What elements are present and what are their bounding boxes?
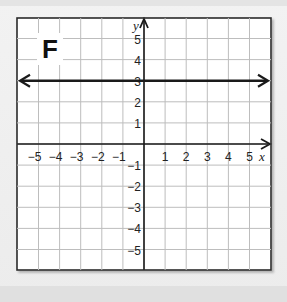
x-tick-label: 2 [183,150,190,164]
x-tick-label: −1 [112,150,126,164]
y-tick-label: −2 [127,180,141,194]
x-tick-label: −5 [28,150,42,164]
x-tick-label: −3 [70,150,84,164]
y-tick-label: 5 [134,33,141,47]
x-tick-label: 1 [162,150,169,164]
x-tick-label: −4 [49,150,63,164]
panel-label: F [37,33,63,65]
x-tick-label: 3 [204,150,211,164]
y-tick-label: 2 [134,96,141,110]
x-tick-label: 5 [246,150,253,164]
y-tick-label: 4 [134,54,141,68]
y-tick-label: −4 [127,222,141,236]
y-tick-label: −5 [127,244,141,258]
y-tick-label: 1 [134,117,141,131]
x-tick-label: −2 [91,150,105,164]
y-tick-label: −1 [127,159,141,173]
x-tick-label: 4 [225,150,232,164]
y-tick-label: −3 [127,201,141,215]
y-axis-label: y [131,18,139,33]
x-axis-label: x [258,149,265,164]
